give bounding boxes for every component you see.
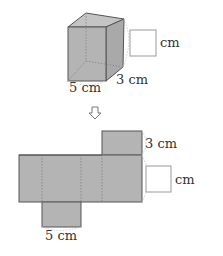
net-height-unit: cm bbox=[175, 172, 195, 187]
cuboid: cm 3 cm 5 cm bbox=[68, 13, 180, 95]
cube-height-unit: cm bbox=[160, 35, 180, 50]
cube-height-answer-box[interactable] bbox=[130, 30, 156, 56]
cuboid-diagram: cm 3 cm 5 cm 3 cm cm 5 cm bbox=[0, 0, 223, 256]
net-bottom-flap-label: 5 cm bbox=[45, 228, 77, 243]
cube-width-label: 5 cm bbox=[69, 80, 101, 95]
cuboid-front-face bbox=[68, 27, 106, 81]
net-top-flap-label: 3 cm bbox=[145, 136, 177, 151]
net-height-answer-box[interactable] bbox=[146, 166, 171, 192]
net-main-strip bbox=[19, 155, 142, 202]
cube-depth-label: 3 cm bbox=[116, 72, 148, 87]
cuboid-net: 3 cm cm 5 cm bbox=[19, 131, 195, 243]
net-top-flap bbox=[102, 131, 142, 155]
down-arrow-icon bbox=[89, 107, 101, 119]
net-bottom-flap bbox=[42, 202, 81, 227]
